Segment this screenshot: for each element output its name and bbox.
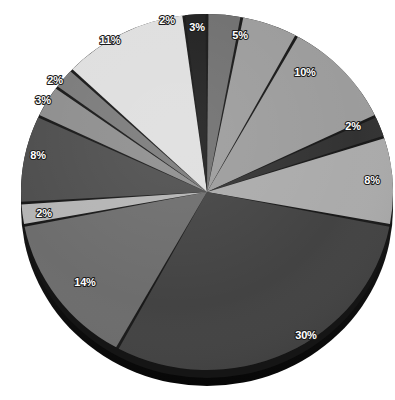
pie-chart-canvas: 3%5%10%2%8%30%14%2%8%3%2%11%2%: [0, 0, 395, 400]
pie-slice-label: 5%: [232, 29, 248, 41]
pie-slice-label: 2%: [159, 14, 175, 26]
pie-slice-label: 10%: [294, 66, 316, 78]
pie-slice-label: 2%: [47, 74, 63, 86]
pie-slice-label: 8%: [364, 174, 380, 186]
pie-slice-label: 2%: [36, 207, 52, 219]
pie-slice-label: 14%: [74, 276, 96, 288]
pie-slice-label: 2%: [345, 120, 361, 132]
pie-slice-label: 3%: [189, 21, 205, 33]
pie-slice-label: 3%: [35, 94, 51, 106]
pie-slice-label: 8%: [30, 149, 46, 161]
pie-sheen-overlay: [21, 14, 393, 370]
pie-chart-figure: 3%5%10%2%8%30%14%2%8%3%2%11%2%: [0, 0, 395, 400]
pie-slice-label: 30%: [295, 329, 317, 341]
pie-slice-label: 11%: [100, 34, 121, 46]
